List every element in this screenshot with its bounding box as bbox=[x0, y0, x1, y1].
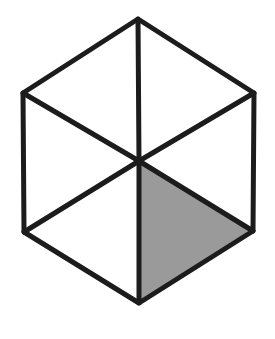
hexagon-diagram bbox=[0, 0, 275, 339]
spoke-to-top bbox=[138, 19, 139, 161]
figure-canvas bbox=[0, 0, 275, 339]
